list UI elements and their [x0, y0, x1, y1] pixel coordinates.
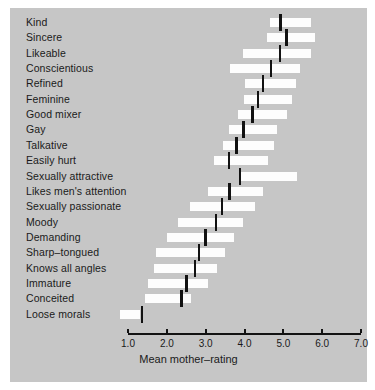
category-label: Refined	[26, 78, 63, 89]
range-bar	[154, 264, 216, 273]
range-bar	[230, 64, 300, 73]
median-marker	[285, 29, 288, 46]
range-bar	[208, 187, 264, 196]
category-label: Likes men's attention	[26, 186, 126, 197]
category-label: Talkative	[26, 140, 68, 151]
median-marker	[198, 244, 201, 261]
median-marker	[270, 60, 273, 77]
median-marker	[204, 229, 207, 246]
x-axis-tick-label: 2.0	[152, 338, 182, 349]
category-label: Moody	[26, 217, 58, 228]
category-label: Sexually attractive	[26, 171, 113, 182]
category-label: Sharp–tongued	[26, 247, 99, 258]
range-bar	[120, 310, 141, 319]
category-label: Good mixer	[26, 109, 81, 120]
category-label: Likeable	[26, 48, 66, 59]
category-label: Sexually passionate	[26, 201, 121, 212]
x-axis-tick	[166, 329, 168, 333]
median-marker	[257, 91, 260, 108]
median-marker	[228, 152, 231, 169]
x-axis-tick-label: 7.0	[346, 338, 375, 349]
category-label: Sincere	[26, 32, 62, 43]
x-axis-line	[128, 333, 361, 335]
range-bar	[167, 233, 234, 242]
category-label: Feminine	[26, 94, 70, 105]
median-marker	[194, 260, 197, 277]
median-marker	[262, 75, 265, 92]
median-marker	[242, 121, 245, 138]
median-marker	[215, 214, 218, 231]
range-bar	[241, 172, 297, 181]
range-bar	[229, 125, 277, 134]
chart-plot-area: KindSincereLikeableConscientiousRefinedF…	[10, 8, 367, 382]
category-label: Gay	[26, 124, 46, 135]
range-bar	[214, 156, 268, 165]
category-label: Loose morals	[26, 309, 90, 320]
median-marker	[239, 168, 242, 185]
x-axis-tick-label: 1.0	[113, 338, 143, 349]
x-axis-tick	[360, 329, 362, 333]
category-label: Conceited	[26, 293, 74, 304]
median-marker	[185, 275, 188, 292]
range-bar	[156, 248, 225, 257]
category-label: Knows all angles	[26, 263, 106, 274]
category-label: Immature	[26, 278, 71, 289]
x-axis-tick	[321, 329, 323, 333]
range-bar	[178, 218, 242, 227]
x-axis-tick-label: 6.0	[307, 338, 337, 349]
category-label: Demanding	[26, 232, 81, 243]
range-bar	[270, 18, 312, 27]
category-label: Easily hurt	[26, 155, 76, 166]
x-axis-title: Mean mother–rating	[10, 353, 367, 365]
range-bar	[145, 294, 190, 303]
median-marker	[235, 137, 238, 154]
range-bar	[267, 33, 315, 42]
median-marker	[228, 183, 231, 200]
range-bar	[244, 95, 292, 104]
x-axis-tick-label: 3.0	[191, 338, 221, 349]
range-bar	[245, 79, 295, 88]
x-axis-tick	[127, 329, 129, 333]
category-label: Kind	[26, 17, 47, 28]
median-marker	[141, 306, 144, 323]
median-marker	[251, 106, 254, 123]
median-marker	[279, 14, 282, 31]
range-bar	[243, 49, 311, 58]
range-bar	[238, 110, 287, 119]
median-marker	[221, 198, 224, 215]
chart-panel: KindSincereLikeableConscientiousRefinedF…	[10, 8, 367, 382]
median-marker	[180, 290, 183, 307]
range-bar	[148, 279, 207, 288]
x-axis-tick	[244, 329, 246, 333]
category-label: Conscientious	[26, 63, 93, 74]
median-marker	[279, 45, 282, 62]
x-axis-tick-label: 4.0	[230, 338, 260, 349]
x-axis-tick	[282, 329, 284, 333]
range-bar	[223, 141, 273, 150]
x-axis-tick	[205, 329, 207, 333]
x-axis-tick-label: 5.0	[268, 338, 298, 349]
